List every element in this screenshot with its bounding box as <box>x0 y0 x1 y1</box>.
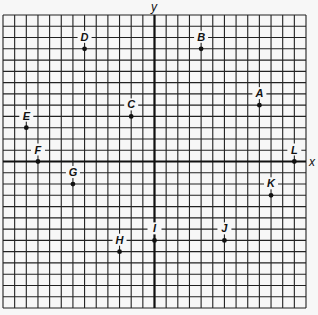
point-marker <box>292 159 297 164</box>
point-marker <box>152 238 157 243</box>
point-marker <box>129 114 134 119</box>
point-marker <box>117 249 122 254</box>
point-label: G <box>69 166 78 178</box>
point-e: E <box>19 110 33 130</box>
point-marker <box>199 46 204 51</box>
point-marker <box>71 182 76 187</box>
point-label: L <box>291 144 298 156</box>
point-label: K <box>267 177 276 189</box>
point-marker <box>24 125 29 130</box>
coordinate-plane: x y ABCDEFGHIJKL <box>0 0 318 315</box>
point-marker <box>36 159 41 164</box>
point-i: I <box>148 222 162 242</box>
point-label: B <box>197 31 205 43</box>
point-marker <box>269 193 274 198</box>
point-label: J <box>221 222 228 234</box>
point-j: J <box>217 222 231 242</box>
point-label: H <box>116 234 125 246</box>
point-label: D <box>81 31 89 43</box>
point-h: H <box>113 234 127 254</box>
point-d: D <box>78 31 92 51</box>
point-label: E <box>23 110 31 122</box>
x-axis-label: x <box>308 155 316 169</box>
point-k: K <box>264 177 278 197</box>
y-axis-label: y <box>150 0 158 14</box>
point-a: A <box>252 87 266 107</box>
point-label: F <box>35 144 42 156</box>
axes <box>3 15 306 308</box>
point-b: B <box>194 31 208 51</box>
point-marker <box>222 238 227 243</box>
point-marker <box>82 46 87 51</box>
point-marker <box>257 103 262 108</box>
point-label: C <box>127 98 136 110</box>
point-label: A <box>254 87 263 99</box>
point-g: G <box>66 166 80 186</box>
point-c: C <box>124 98 138 118</box>
